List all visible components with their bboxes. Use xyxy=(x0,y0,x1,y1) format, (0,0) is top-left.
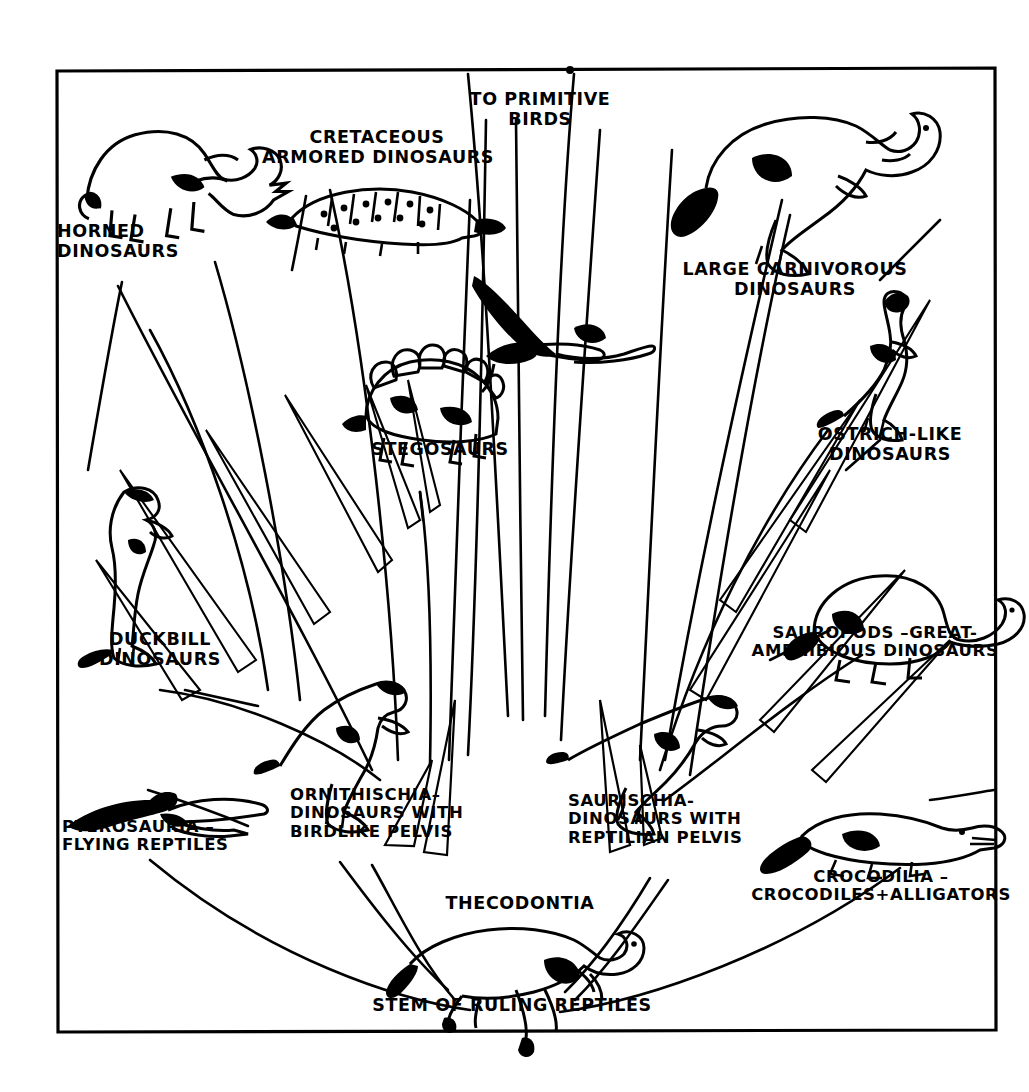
label-duckbill-dinosaurs: DUCKBILL DINOSAURS xyxy=(80,630,240,669)
tree-canvas xyxy=(0,0,1029,1092)
branch-left-spear-3 xyxy=(206,430,330,624)
branch-saurischia-to-sauropods xyxy=(665,655,862,800)
branch-ornithischia-to-horned xyxy=(118,286,372,770)
branch-ornithischia-to-stego xyxy=(420,492,431,765)
tyrannosaur-silhouette xyxy=(671,113,940,276)
branch-ornithischia-to-armored xyxy=(330,190,398,760)
label-thecodontia: THECODONTIA xyxy=(420,894,620,914)
branch-right-spear-3 xyxy=(690,470,830,700)
branch-centre-vertical-b xyxy=(561,130,600,740)
leader-crocodilia xyxy=(930,790,994,800)
label-large-carnivorous-dinosaurs: LARGE CARNIVOROUS DINOSAURS xyxy=(660,260,930,299)
label-stegosaurs: STEGOSAURS xyxy=(350,440,530,460)
branch-right-spear-5 xyxy=(812,640,950,782)
branch-stem-to-pterosauria xyxy=(150,860,470,1010)
label-stem-of-ruling-reptiles: STEM OF RULING REPTILES xyxy=(332,996,692,1016)
label-ornithischia: ORNITHISCHIA– DINOSAURS WITH BIRDLIKE PE… xyxy=(290,786,510,841)
branch-ornithischia-long-a xyxy=(449,200,470,760)
branch-stem-to-ornithischia-left xyxy=(372,865,455,1000)
label-saurischia: SAURISCHIA- DINOSAURS WITH REPTILIAN PEL… xyxy=(568,792,798,847)
label-horned-dinosaurs: HORNED DINOSAURS xyxy=(57,222,237,261)
branch-centre-vertical-a xyxy=(516,120,523,720)
leader-stego xyxy=(420,492,423,520)
pterodactyl-silhouette xyxy=(472,276,655,392)
branch-to-primitive-birds-right xyxy=(545,74,574,716)
birds-terminal-dot xyxy=(566,66,574,74)
evolutionary-tree-figure: HORNED DINOSAURS CRETACEOUS ARMORED DINO… xyxy=(0,0,1029,1092)
thecodont-silhouette xyxy=(386,928,644,1057)
branch-saurischia-tall-1 xyxy=(640,150,672,760)
label-to-primitive-birds: TO PRIMITIVE BIRDS xyxy=(455,90,625,129)
label-pterosauria: PTEROSAURIA – FLYING REPTILES xyxy=(62,818,282,855)
label-sauropods: SAUROPODS –GREAT- AMPHIBIOUS DINOSAURS xyxy=(740,624,1010,661)
branch-right-spear-1 xyxy=(790,300,930,532)
label-ostrich-like-dinosaurs: OSTRICH-LIKE DINOSAURS xyxy=(790,425,990,464)
label-cretaceous-armored-dinosaurs: CRETACEOUS ARMORED DINOSAURS xyxy=(262,128,492,167)
label-crocodilia: CROCODILIA – CROCODILES+ALLIGATORS xyxy=(746,868,1016,905)
leader-horned xyxy=(88,282,122,470)
